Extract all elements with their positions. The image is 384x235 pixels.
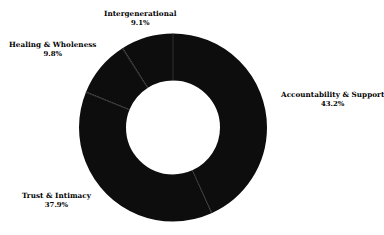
slice-label-name: Intergenerational [104, 10, 176, 19]
slice-label-accountability-and-support: Accountability & Support 43.2% [281, 91, 384, 108]
slice-label-intergenerational: Intergenerational 9.1% [104, 10, 176, 27]
slice-label-name: Accountability & Support [281, 91, 384, 100]
slice-label-healing-and-wholeness: Healing & Wholeness 9.8% [9, 41, 96, 58]
slice-label-name: Trust & Intimacy [22, 192, 91, 201]
slice-label-value: 37.9% [22, 201, 91, 209]
slice-label-value: 43.2% [281, 100, 384, 108]
slice-label-value: 9.1% [104, 19, 176, 27]
slice-label-name: Healing & Wholeness [9, 41, 96, 50]
slice-label-trust-and-intimacy: Trust & Intimacy 37.9% [22, 192, 91, 209]
slice-label-value: 9.8% [9, 50, 96, 58]
